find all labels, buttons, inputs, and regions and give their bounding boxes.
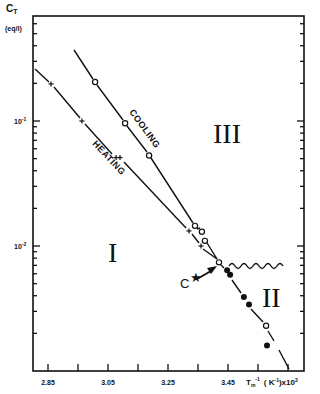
open-circle-marker [199, 229, 204, 234]
open-circle-marker [147, 153, 152, 158]
x-axis-label: Tm-1( K-1)x103 [246, 376, 298, 388]
open-circle-marker [216, 260, 221, 265]
plot-frame [33, 16, 304, 371]
open-circle-marker [264, 323, 269, 328]
open-circle-marker [202, 238, 207, 243]
open-circle-marker [192, 223, 197, 228]
point-c-label: C [180, 276, 189, 291]
filled-circle-marker [264, 342, 270, 348]
x-tick-label: 3.45 [221, 379, 235, 386]
x-tick-label: 3.25 [161, 379, 175, 386]
x-tick-label: 2.85 [41, 379, 55, 386]
filled-circle-marker [227, 272, 233, 278]
region-label-iii: III [213, 118, 241, 149]
bottom-axis-tick-labels: 2.853.053.253.45 [41, 379, 235, 386]
cooling-series-label: COOLING [127, 107, 162, 150]
y-axis-label: CT [6, 3, 18, 15]
filled-circle-marker [246, 302, 252, 308]
region-ii-open-markers [264, 323, 269, 328]
y-tick-label-1e-2: 10-2 [14, 241, 26, 250]
wavy-boundary-line [229, 264, 283, 269]
region-label-ii: II [262, 282, 281, 313]
bottom-axis-ticks [48, 364, 288, 371]
right-axis-ticks [297, 24, 304, 334]
open-circle-marker [93, 79, 98, 84]
y-axis-units: (eq/l) [5, 25, 22, 33]
y-tick-label-1e-1: 10-1 [14, 116, 26, 125]
filled-circle-marker [241, 294, 247, 300]
x-tick-label: 3.05 [101, 379, 115, 386]
region-label-i: I [108, 237, 117, 268]
chart: CT (eq/l) 10-1 10-2 2.853.053.253.45 Tm-… [0, 0, 320, 394]
region-ii-line [221, 265, 289, 369]
open-circle-marker [123, 121, 128, 126]
